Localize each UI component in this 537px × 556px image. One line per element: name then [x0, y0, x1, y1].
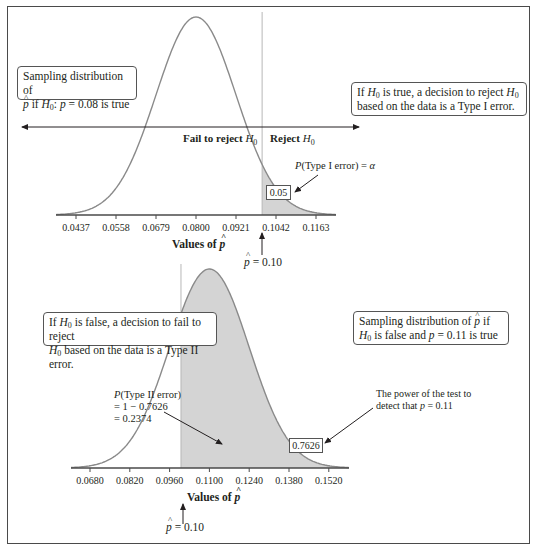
power-area-value: 0.7626 — [289, 438, 323, 453]
reject-label: Reject H0 — [270, 132, 315, 147]
type1-error-label: P(Type I error) = α — [294, 160, 376, 172]
top-xlabel-hat: ^ — [221, 232, 226, 242]
x-tick-label: 0.0921 — [222, 222, 250, 233]
type1-area-value: 0.05 — [266, 185, 291, 200]
type2-error-label: P(Type II error) = 1 − 0.7626 = 0.2374 — [114, 389, 181, 425]
type1-pointer-arrow — [295, 175, 318, 192]
x-tick-label: 0.1163 — [302, 222, 329, 233]
top-xlabel: Values of p — [172, 238, 226, 251]
x-tick-label: 0.0558 — [102, 222, 130, 233]
x-tick-label: 0.1042 — [262, 222, 290, 233]
power-label: The power of the test to detect that p =… — [376, 388, 471, 412]
x-tick-label: 0.0679 — [142, 222, 170, 233]
density-curve — [56, 17, 336, 215]
fail-to-reject-label: Fail to reject H0 — [183, 132, 257, 147]
type1-error-box: If H0 is true, a decision to reject H0 b… — [351, 82, 527, 116]
bottom-xlabel-hat: ^ — [236, 485, 241, 495]
top-chart: 0.04370.05580.06790.08000.09210.10420.11… — [56, 12, 336, 233]
x-tick-label: 0.1520 — [315, 475, 343, 486]
null-distribution-box: Sampling distribution of p if H0: p = 0.… — [17, 66, 137, 100]
x-tick-label: 0.0820 — [116, 475, 144, 486]
power-pointer-arrow — [325, 408, 373, 443]
x-tick-label: 0.0437 — [62, 222, 90, 233]
type2-error-box: If H0 is false, a decision to fail to re… — [43, 312, 217, 346]
x-tick-label: 0.1380 — [275, 475, 303, 486]
alternative-distribution-box: Sampling distribution of p if H0 is fals… — [353, 311, 509, 345]
x-tick-label: 0.1100 — [196, 475, 223, 486]
bottom-xlabel: Values of p — [187, 491, 241, 504]
x-tick-label: 0.0680 — [76, 475, 104, 486]
x-tick-label: 0.0800 — [182, 222, 210, 233]
x-tick-label: 0.0960 — [156, 475, 184, 486]
